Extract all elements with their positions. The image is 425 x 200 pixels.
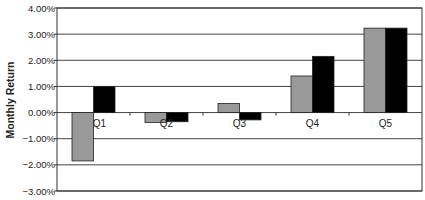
y-tick-label: 3.00%: [28, 29, 55, 40]
bar-q1-series-1: [72, 113, 94, 161]
category-label: Q4: [306, 118, 320, 129]
bars: [72, 28, 407, 161]
bar-q5-series-1: [364, 28, 386, 112]
bar-chart: 4.00%3.00%2.00%1.00%0.00%−1.00%−2.00%−3.…: [0, 0, 425, 200]
y-tick-label: −3.00%: [23, 186, 56, 197]
y-tick-label: −2.00%: [23, 159, 56, 170]
y-tick-label: 0.00%: [28, 107, 55, 118]
category-label: Q1: [93, 118, 107, 129]
y-tick-label: 2.00%: [28, 55, 55, 66]
y-tick-label: 4.00%: [28, 3, 55, 14]
y-tick-label: −1.00%: [23, 133, 56, 144]
y-tick-label: 1.00%: [28, 81, 55, 92]
category-label: Q5: [379, 118, 393, 129]
category-labels: Q1Q2Q3Q4Q5: [93, 118, 393, 129]
category-label: Q2: [160, 118, 174, 129]
bar-q1-series-2: [94, 86, 116, 112]
category-label: Q3: [233, 118, 247, 129]
bar-q3-series-1: [218, 103, 240, 112]
y-axis-ticks: 4.00%3.00%2.00%1.00%0.00%−1.00%−2.00%−3.…: [23, 3, 58, 197]
y-axis-label: Monthly Return: [4, 62, 16, 139]
bar-q4-series-1: [291, 76, 313, 113]
bar-q4-series-2: [313, 56, 335, 112]
bar-q5-series-2: [386, 28, 408, 112]
